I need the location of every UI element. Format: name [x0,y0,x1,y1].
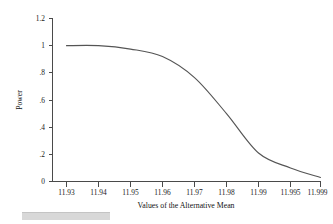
power-curve-figure: 0 .2 .4 .6 .8 1 1.2 11.93 11.94 11.95 11… [0,0,333,224]
y-axis-ticks [49,19,53,182]
y-tick-label-0: 0 [41,177,45,186]
power-curve-line [67,45,321,177]
x-tick-label-4: 11.97 [186,188,203,197]
y-tick-label-1: .2 [39,150,45,159]
y-tick-label-4: .8 [39,68,45,77]
y-axis-title: Power [15,90,24,110]
x-tick-label-3: 11.96 [154,188,171,197]
y-tick-label-2: .4 [39,123,45,132]
page-scan-artifact [22,212,110,220]
x-tick-label-5: 11.98 [218,188,235,197]
y-tick-label-6: 1.2 [36,14,46,23]
x-tick-label-2: 11.95 [122,188,139,197]
y-tick-label-3: .6 [39,96,45,105]
x-tick-label-0: 11.93 [58,188,75,197]
x-tick-label-6: 11.99 [250,188,267,197]
x-axis-ticks [67,182,321,187]
x-tick-label-8: 11.999 [307,188,327,197]
x-axis-title: Values of the Alternative Mean [138,201,235,210]
x-tick-label-1: 11.94 [90,188,107,197]
x-tick-label-7: 11.995 [280,188,300,197]
y-tick-label-5: 1 [41,41,45,50]
chart-canvas: 0 .2 .4 .6 .8 1 1.2 11.93 11.94 11.95 11… [0,0,333,224]
